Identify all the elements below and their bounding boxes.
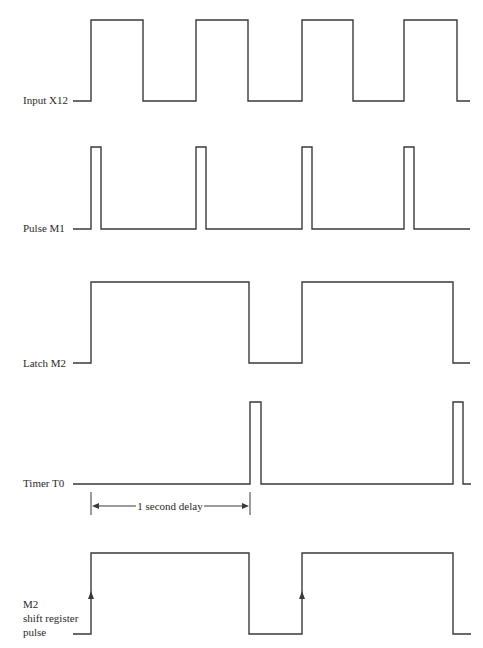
waveform-pulse-m1 bbox=[73, 147, 470, 229]
arrow-left-icon bbox=[92, 503, 99, 509]
rising-edge-arrows bbox=[88, 591, 305, 599]
waveform-latch-m2 bbox=[73, 282, 470, 363]
arrow-up-icon bbox=[88, 591, 94, 599]
waveform-m2-shift-register-pulse bbox=[73, 553, 471, 634]
signal-label-pulse-m1: Pulse M1 bbox=[23, 222, 65, 234]
waveform-input-x12 bbox=[73, 20, 470, 101]
arrow-right-icon bbox=[242, 503, 249, 509]
signal-label-latch-m2: Latch M2 bbox=[23, 357, 66, 369]
delay-annotation: 1 second delay bbox=[91, 492, 250, 515]
signal-input-x12: Input X12 bbox=[23, 20, 470, 106]
signal-label-timer-t0: Timer T0 bbox=[23, 477, 65, 489]
signal-m2-shift-register-pulse: M2 shift register pulse bbox=[23, 553, 471, 638]
signal-label-m2: M2 bbox=[23, 598, 38, 610]
signal-latch-m2: Latch M2 bbox=[23, 282, 470, 369]
signal-label-input-x12: Input X12 bbox=[23, 94, 68, 106]
signal-label-pulse: pulse bbox=[23, 626, 46, 638]
timing-diagram: Input X12 Pulse M1 Latch M2 Timer T0 1 s… bbox=[0, 0, 483, 648]
arrow-up-icon bbox=[299, 591, 305, 599]
signal-label-shift-register: shift register bbox=[23, 612, 79, 624]
waveform-timer-t0 bbox=[73, 402, 471, 484]
signal-timer-t0: Timer T0 bbox=[23, 402, 471, 489]
signal-pulse-m1: Pulse M1 bbox=[23, 147, 470, 234]
delay-label: 1 second delay bbox=[137, 500, 203, 512]
